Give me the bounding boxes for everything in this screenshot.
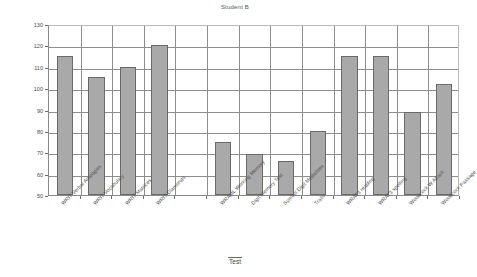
x-tick-mark bbox=[80, 196, 81, 199]
bar bbox=[310, 131, 326, 195]
category-separator bbox=[428, 26, 429, 195]
y-tick-label: 70 bbox=[21, 150, 43, 156]
x-tick-mark bbox=[427, 196, 428, 199]
category-separator bbox=[397, 26, 398, 195]
y-tick-label: 90 bbox=[21, 108, 43, 114]
category-separator bbox=[365, 26, 366, 195]
x-tick-mark bbox=[111, 196, 112, 199]
x-tick-mark bbox=[269, 196, 270, 199]
y-tick-label: 60 bbox=[21, 172, 43, 178]
x-tick-mark bbox=[301, 196, 302, 199]
category-separator bbox=[270, 26, 271, 195]
x-tick-mark bbox=[206, 196, 207, 199]
x-tick-mark bbox=[364, 196, 365, 199]
category-separator bbox=[207, 26, 208, 195]
chart-title: Student B bbox=[0, 4, 470, 10]
category-separator bbox=[81, 26, 82, 195]
y-tick-label: 130 bbox=[21, 22, 43, 28]
x-axis-title-text: Test bbox=[228, 257, 242, 265]
y-axis: 5060708090100110120130 bbox=[22, 25, 48, 196]
x-tick-mark bbox=[396, 196, 397, 199]
bar bbox=[151, 45, 167, 195]
y-tick-label: 100 bbox=[21, 86, 43, 92]
category-separator bbox=[175, 26, 176, 195]
category-separator bbox=[144, 26, 145, 195]
y-tick-label: 120 bbox=[21, 43, 43, 49]
x-tick-mark bbox=[238, 196, 239, 199]
y-tick-label: 110 bbox=[21, 65, 43, 71]
x-tick-mark bbox=[459, 196, 460, 199]
x-tick-mark bbox=[174, 196, 175, 199]
category-separator bbox=[112, 26, 113, 195]
x-tick-mark bbox=[143, 196, 144, 199]
category-separator bbox=[239, 26, 240, 195]
y-tick-label: 50 bbox=[21, 193, 43, 199]
bar bbox=[57, 56, 73, 195]
bar bbox=[404, 112, 420, 195]
bar bbox=[341, 56, 357, 195]
y-tick-mark bbox=[45, 196, 48, 197]
bar bbox=[215, 142, 231, 195]
y-tick-label: 80 bbox=[21, 129, 43, 135]
x-tick-mark bbox=[333, 196, 334, 199]
category-separator bbox=[302, 26, 303, 195]
x-axis-title: Test bbox=[0, 258, 470, 265]
bar bbox=[373, 56, 389, 195]
category-separator bbox=[334, 26, 335, 195]
